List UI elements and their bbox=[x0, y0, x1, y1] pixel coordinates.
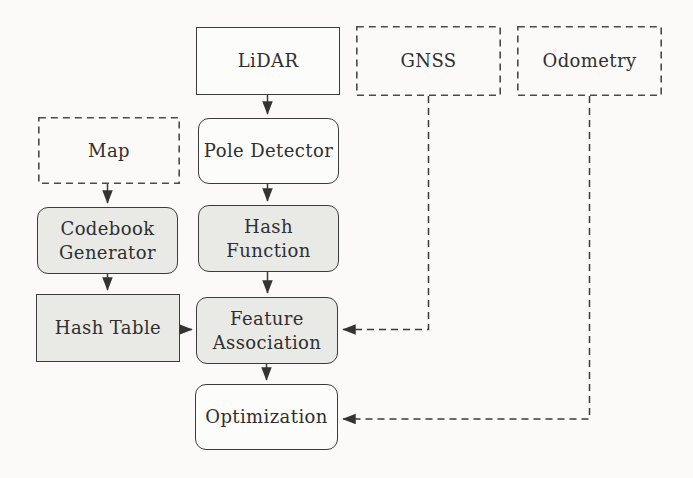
node-codebook-generator: Codebook Generator bbox=[37, 207, 178, 274]
node-hash-table: Hash Table bbox=[36, 294, 180, 362]
edge-gnss-to-feature-association bbox=[343, 96, 429, 330]
node-odometry: Odometry bbox=[517, 26, 662, 96]
edge-odometry-to-optimization bbox=[343, 96, 590, 419]
node-lidar: LiDAR bbox=[196, 27, 340, 95]
node-map: Map bbox=[38, 117, 180, 184]
node-map-label: Map bbox=[84, 139, 134, 162]
flow-diagram: LiDAR GNSS Odometry Map Pole Detector Co… bbox=[0, 0, 693, 478]
node-optimization-label: Optimization bbox=[201, 405, 332, 428]
node-odometry-label: Odometry bbox=[538, 49, 640, 72]
node-hash-function: Hash Function bbox=[198, 205, 339, 272]
node-pole-detector: Pole Detector bbox=[198, 118, 339, 184]
node-hash-function-label: Hash Function bbox=[199, 215, 338, 261]
node-feature-association: Feature Association bbox=[196, 297, 338, 364]
node-gnss-label: GNSS bbox=[396, 49, 460, 72]
node-hash-table-label: Hash Table bbox=[51, 316, 165, 339]
node-feature-association-label: Feature Association bbox=[197, 307, 337, 353]
node-optimization: Optimization bbox=[195, 384, 338, 450]
node-codebook-generator-label: Codebook Generator bbox=[38, 217, 177, 263]
node-lidar-label: LiDAR bbox=[234, 49, 303, 72]
node-pole-detector-label: Pole Detector bbox=[200, 139, 337, 162]
node-gnss: GNSS bbox=[356, 26, 501, 96]
